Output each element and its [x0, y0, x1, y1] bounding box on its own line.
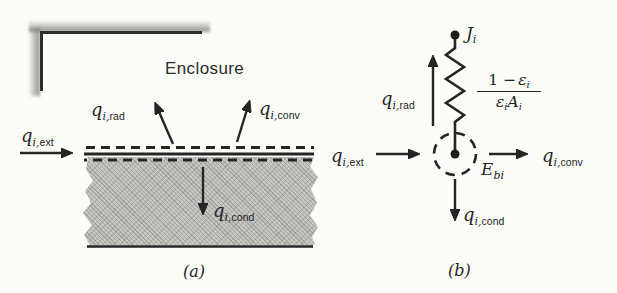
enclosure-label: Enclosure	[165, 60, 244, 77]
surface-resistance-label: 1 −εi εiAi	[477, 71, 541, 111]
qi-rad-label-b: qi,rad	[381, 88, 415, 109]
radiosity-node-label: Ji	[466, 23, 476, 43]
qi-cond-label-b: qi,cond	[463, 204, 504, 225]
qi-rad-arrow-a	[156, 105, 173, 144]
qi-conv-arrow-a	[237, 103, 249, 142]
resistance-numerator: 1 −εi	[477, 71, 541, 89]
figure-radiation-surface-energy-balance: Enclosure qi,ext qi,rad qi,conv qi,cond …	[0, 0, 617, 293]
qi-conv-label-a: qi,conv	[259, 98, 300, 119]
qi-ext-label-b: qi,ext	[331, 145, 364, 166]
caption-b: (b)	[448, 261, 471, 280]
qi-ext-label-a: qi,ext	[21, 125, 54, 146]
qi-cond-label-a: qi,cond	[213, 200, 254, 221]
caption-a: (a)	[183, 262, 205, 281]
qi-conv-label-b: qi,conv	[542, 145, 583, 166]
fraction-bar	[477, 91, 541, 92]
qi-rad-label-a: qi,rad	[91, 99, 125, 120]
resistance-denominator: εiAi	[477, 93, 541, 111]
radiosity-node-dot	[451, 31, 460, 40]
figure-linework	[0, 0, 617, 293]
emissive-power-node-label: Ebi	[481, 159, 504, 179]
surface-node-dot	[451, 150, 460, 159]
